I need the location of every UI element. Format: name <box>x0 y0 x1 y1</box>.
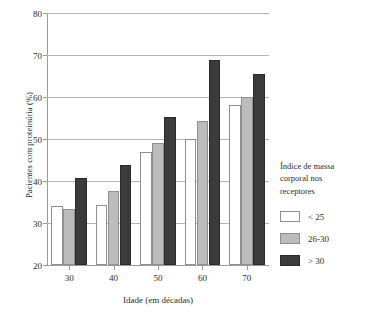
legend-swatch <box>280 255 300 266</box>
legend-title-line-3: receptores <box>280 185 376 197</box>
legend-item-label: 26-30 <box>308 234 329 244</box>
x-tick-mark <box>69 266 70 270</box>
y-tick-mark <box>43 97 47 98</box>
x-axis-label: Idade (em décadas) <box>47 295 269 305</box>
bar <box>120 165 132 265</box>
bar <box>75 178 87 265</box>
gridline <box>47 97 269 98</box>
y-tick-mark <box>43 223 47 224</box>
x-tick-label: 60 <box>198 274 207 283</box>
bar <box>229 105 241 265</box>
legend-items: < 2526-30> 30 <box>280 206 376 272</box>
legend-item: < 25 <box>280 206 376 228</box>
bar <box>108 191 120 265</box>
y-tick-mark <box>43 139 47 140</box>
gridline <box>47 13 269 14</box>
bar <box>140 152 152 265</box>
y-tick-label: 80 <box>33 10 42 19</box>
y-tick-mark <box>43 55 47 56</box>
y-tick-label: 30 <box>33 220 42 229</box>
y-tick-mark <box>43 265 47 266</box>
x-tick-mark <box>202 266 203 270</box>
x-tick-mark <box>114 266 115 270</box>
legend-item-label: > 30 <box>308 256 324 266</box>
x-tick-label: 50 <box>154 274 163 283</box>
bar <box>197 121 209 265</box>
x-tick-mark <box>158 266 159 270</box>
y-tick-label: 40 <box>33 178 42 187</box>
y-tick-mark <box>43 181 47 182</box>
y-axis-line <box>47 14 48 266</box>
bar-chart-figure: Pacientes com proteinúria (%) 2030405060… <box>0 0 376 326</box>
legend-item: 26-30 <box>280 228 376 250</box>
y-axis-label: Pacientes com proteinúria (%) <box>24 60 34 230</box>
bar <box>241 97 253 265</box>
y-tick-label: 60 <box>33 94 42 103</box>
legend-swatch <box>280 233 300 244</box>
x-tick-label: 70 <box>242 274 251 283</box>
legend-title-line-2: corporal nos <box>280 172 376 184</box>
x-tick-label: 30 <box>65 274 74 283</box>
bar <box>164 117 176 265</box>
plot-area: 20304050607080 3040506070 <box>47 14 269 266</box>
y-tick-label: 70 <box>33 52 42 61</box>
legend-swatch <box>280 211 300 222</box>
bar <box>185 139 197 265</box>
legend-item: > 30 <box>280 250 376 272</box>
legend-item-label: < 25 <box>308 212 324 222</box>
y-tick-label: 50 <box>33 136 42 145</box>
y-tick-mark <box>43 13 47 14</box>
bar <box>152 143 164 265</box>
bar <box>51 206 63 265</box>
x-tick-label: 40 <box>109 274 118 283</box>
legend: Índice de massa corporal nos receptores … <box>280 160 376 272</box>
gridline <box>47 55 269 56</box>
bar <box>209 60 221 265</box>
y-tick-label: 20 <box>33 262 42 271</box>
bar <box>96 205 108 265</box>
legend-title-line-1: Índice de massa <box>280 160 376 172</box>
x-tick-mark <box>247 266 248 270</box>
legend-title: Índice de massa corporal nos receptores <box>280 160 376 197</box>
bar <box>253 74 265 265</box>
bar <box>63 209 75 265</box>
